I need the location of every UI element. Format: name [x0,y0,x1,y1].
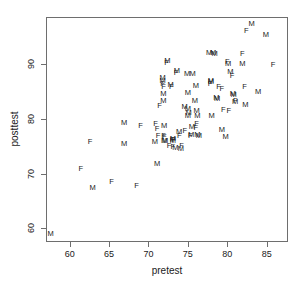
data-point-f: F [194,121,199,129]
x-tick-mark [109,242,110,247]
y-tick-mark [41,228,46,229]
y-tick-label: 90 [26,59,36,69]
x-axis-title: pretest [152,265,183,276]
scatter-plot: MMMMMMMMMMMMMMMMMMMMMMMMMMMMMMMMMMMMMMMM… [0,0,303,285]
data-point-m: M [208,112,214,120]
data-point-m: M [214,95,220,103]
data-point-f: F [171,144,176,152]
y-tick-label: 70 [26,169,36,179]
data-point-f: F [233,97,238,105]
data-point-m: M [121,119,127,127]
y-tick-mark [41,119,46,120]
data-point-m: M [192,97,198,105]
data-point-f: F [109,178,114,186]
y-tick-mark [41,174,46,175]
y-tick-mark [41,64,46,65]
data-point-m: M [223,133,229,141]
data-point-f: F [169,83,174,91]
data-point-m: M [161,122,167,130]
data-point-f: F [88,138,93,146]
x-tick-label: 75 [183,249,193,259]
data-point-f: F [244,27,249,35]
x-tick-label: 85 [262,249,272,259]
x-tick-mark [148,242,149,247]
data-point-f: F [219,86,224,94]
data-point-f: F [78,165,83,173]
data-point-m: M [255,88,261,96]
data-point-f: F [225,59,230,67]
x-tick-mark [227,242,228,247]
data-point-f: F [230,72,235,80]
data-point-m: M [242,101,248,109]
data-point-f: F [271,61,276,69]
x-tick-label: 70 [143,249,153,259]
data-point-m: M [189,71,195,79]
y-tick-label: 60 [26,223,36,233]
data-point-f: F [221,106,226,114]
data-point-m: M [263,31,269,39]
data-point-m: M [48,230,54,238]
data-point-m: M [193,82,199,90]
data-point-f: F [179,142,184,150]
data-point-m: M [196,132,202,140]
data-point-f: F [182,127,187,135]
data-point-f: F [161,83,166,91]
data-point-f: F [138,123,143,131]
data-point-m: M [121,140,127,148]
data-point-m: M [185,89,191,97]
data-point-f: F [242,83,247,91]
x-tick-mark [188,242,189,247]
data-point-f: F [157,102,162,110]
x-tick-mark [70,242,71,247]
data-point-f: F [240,50,245,58]
data-point-m: M [186,110,192,118]
data-point-m: M [239,60,245,68]
data-point-f: F [156,133,161,141]
data-point-m: M [212,50,218,58]
data-points-layer: MMMMMMMMMMMMMMMMMMMMMMMMMMMMMMMMMMMMMMMM… [46,17,288,242]
x-tick-mark [267,242,268,247]
data-point-f: F [208,81,213,89]
data-point-f: F [164,59,169,67]
data-point-f: F [177,132,182,140]
data-point-f: F [171,136,176,144]
y-axis-title: posttest [9,111,20,146]
data-point-m: M [249,20,255,28]
x-tick-label: 80 [222,249,232,259]
data-point-m: M [154,160,160,168]
data-point-f: F [188,132,193,140]
data-point-f: F [227,107,232,115]
x-tick-label: 65 [104,249,114,259]
data-point-f: F [174,70,179,78]
data-point-m: M [194,112,200,120]
x-tick-label: 60 [65,249,75,259]
data-point-f: F [134,182,139,190]
data-point-m: M [89,184,95,192]
y-tick-label: 80 [26,114,36,124]
